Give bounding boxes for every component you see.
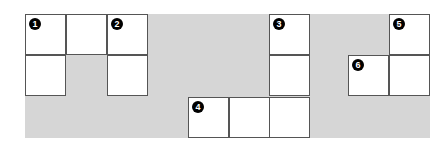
grid-cell-shape-4 [229, 97, 270, 138]
number-badge-3: 3 [273, 18, 285, 30]
number-badge-1: 1 [29, 18, 41, 30]
grid-cell-shape-3 [269, 55, 310, 96]
grid-cell-shape-5: 5 [389, 14, 430, 55]
grid-cell-shape-6: 6 [348, 55, 389, 96]
grid-cell-shape-1 [66, 14, 107, 55]
grid-cell-shape-3 [269, 97, 310, 138]
grid-cell-shape-3: 3 [269, 14, 310, 55]
number-badge-6: 6 [352, 59, 364, 71]
grid-cell-shape-5 [389, 55, 430, 96]
grid-cell-shape-2: 2 [107, 14, 148, 55]
grid-cell-shape-1 [25, 55, 66, 96]
number-badge-5: 5 [393, 18, 405, 30]
grid-cell-shape-4: 4 [188, 97, 229, 138]
grid-cell-shape-1: 1 [25, 14, 66, 55]
number-badge-4: 4 [192, 101, 204, 113]
grid-cell-shape-2 [107, 55, 148, 96]
number-badge-2: 2 [111, 18, 123, 30]
